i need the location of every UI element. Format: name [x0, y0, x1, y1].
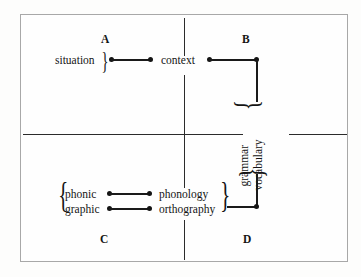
node-dot-phonology	[147, 191, 152, 196]
diagram-page: A B C D situation } context } grammar vo…	[0, 0, 361, 277]
brace-phonology-orthography-close: }	[220, 178, 230, 213]
brace-grammar-vocabulary-bottom: }	[233, 168, 268, 178]
quadrant-label-a: A	[101, 34, 109, 46]
horizontal-axis-right-segment	[289, 134, 347, 135]
connector-graphic-orthography	[109, 208, 149, 210]
connector-situation-context	[111, 59, 150, 61]
node-label-situation: situation	[55, 55, 95, 67]
connector-c-brace-to-d	[227, 206, 257, 208]
vertical-axis-upper	[184, 18, 185, 56]
quadrant-label-c: C	[100, 234, 108, 246]
node-label-phonic: phonic	[65, 189, 96, 201]
quadrant-label-b: B	[242, 34, 250, 46]
brace-grammar-vocabulary-top: }	[233, 100, 268, 110]
node-label-graphic: graphic	[65, 204, 99, 216]
node-label-phonology: phonology	[159, 189, 208, 201]
node-dot-orthography	[147, 206, 152, 211]
diagram-frame: A B C D situation } context } grammar vo…	[20, 14, 348, 262]
connector-phonic-phonology	[109, 193, 149, 195]
vertical-axis-lower-mid	[184, 134, 185, 188]
connector-b-down-to-brace	[256, 60, 258, 102]
node-dot-d-corner	[254, 204, 259, 209]
node-label-grammar: grammar	[239, 145, 251, 187]
connector-context-to-b	[209, 59, 257, 61]
brace-situation-close: }	[102, 49, 109, 74]
node-label-vocabulary: vocabulary	[253, 139, 265, 190]
node-label-orthography: orthography	[159, 204, 215, 216]
horizontal-axis	[23, 134, 243, 135]
vertical-axis-upper-mid	[184, 75, 185, 134]
connector-brace-down-to-d	[256, 174, 258, 208]
vertical-axis-lower	[184, 220, 185, 260]
node-label-context: context	[161, 55, 195, 67]
node-dot-context-left	[148, 57, 153, 62]
quadrant-label-d: D	[243, 234, 251, 246]
